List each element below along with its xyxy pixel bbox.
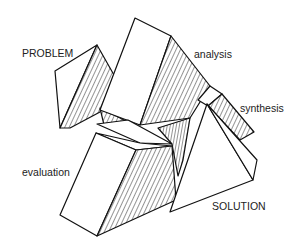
label-solution: SOLUTION <box>212 200 266 212</box>
label-analysis: analysis <box>194 48 232 60</box>
label-problem: PROBLEM <box>22 47 73 59</box>
evaluation-block <box>60 133 176 236</box>
label-evaluation: evaluation <box>22 166 70 178</box>
label-synthesis: synthesis <box>240 102 284 114</box>
design-process-diagram: PROBLEM analysis synthesis evaluation SO… <box>0 0 308 252</box>
analysis-block <box>100 18 210 125</box>
